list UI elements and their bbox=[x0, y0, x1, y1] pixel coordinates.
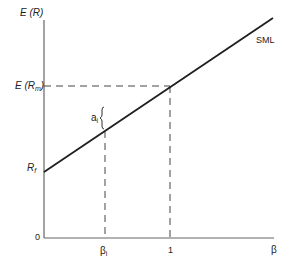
beta-i-label: βi bbox=[100, 246, 107, 257]
alpha-label: ai bbox=[91, 113, 98, 124]
x-axis-label: β bbox=[271, 245, 277, 255]
security-market-line bbox=[44, 18, 273, 172]
y-axis-label: E (R) bbox=[20, 8, 43, 18]
sml-label: SML bbox=[256, 36, 275, 45]
alpha-brace-icon bbox=[100, 107, 104, 129]
market-return-label: E (Rm) bbox=[15, 81, 44, 92]
origin-label: 0 bbox=[35, 233, 40, 242]
sml-diagram bbox=[0, 0, 292, 262]
market-beta-label: 1 bbox=[168, 246, 173, 255]
risk-free-label: Rf bbox=[27, 163, 36, 174]
